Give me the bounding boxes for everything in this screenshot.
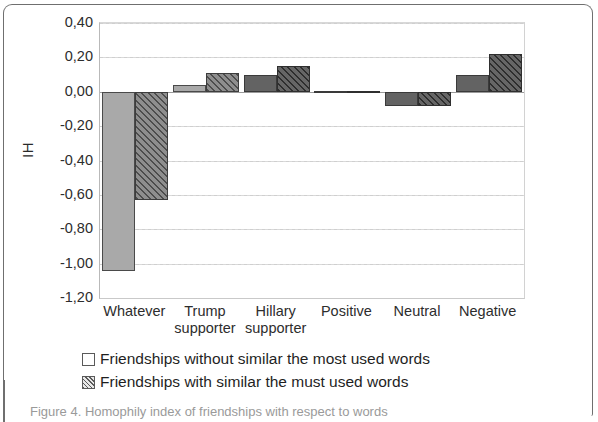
x-axis-label-line: Negative [452,303,523,320]
figure-caption: Figure 4. Homophily index of friendships… [30,404,570,422]
y-axis-tick-mark [99,126,100,127]
x-axis-label: Negative [452,303,523,320]
bar [135,92,168,200]
bar [347,91,380,93]
x-axis-label-line: Trump [170,303,241,320]
y-axis-tick-label: -0,40 [35,152,93,168]
x-axis-label-line: supporter [170,320,241,337]
bar [418,92,451,106]
bar [314,91,347,93]
plot-area [99,22,525,299]
legend-item: Friendships with similar the must used w… [82,371,552,393]
y-axis-tick-mark [99,298,100,299]
legend-label: Friendships with similar the must used w… [100,373,408,391]
gridline [100,23,524,24]
bar [277,66,310,92]
chart-legend: Friendships without similar the most use… [82,348,552,394]
x-axis-label: Trumpsupporter [170,303,241,337]
x-axis-label-line: Positive [311,303,382,320]
open-square-swatch [82,353,95,366]
bar [456,75,489,92]
x-axis-label: Positive [311,303,382,320]
x-axis-label-line: supporter [240,320,311,337]
legend-item: Friendships without similar the most use… [82,348,552,370]
y-axis-tick-mark [99,23,100,24]
x-axis-label-line: Whatever [99,303,170,320]
bar-chart: IH 0,400,200,00-0,20-0,40-0,60-0,80-1,00… [0,0,598,422]
y-axis-tick-mark [99,161,100,162]
y-axis-tick-label: -1,00 [35,255,93,271]
gridline [100,298,524,299]
x-axis-label: Hillarysupporter [240,303,311,337]
y-axis-tick-mark [99,195,100,196]
x-axis-label-line: Hillary [240,303,311,320]
x-axis-label: Whatever [99,303,170,320]
bar [244,75,277,92]
bar [206,73,239,92]
x-axis-label-line: Neutral [382,303,453,320]
legend-label: Friendships without similar the most use… [100,350,430,368]
y-axis-tick-label: -1,20 [35,289,93,305]
gridline [100,229,524,230]
bar [173,85,206,92]
y-axis-tick-label: 0,00 [35,83,93,99]
y-axis-tick-label: -0,60 [35,186,93,202]
hatched-square-swatch [82,376,95,389]
x-axis-category-labels: WhateverTrumpsupporterHillarysupporterPo… [99,303,525,343]
y-axis-tick-mark [99,57,100,58]
y-axis-tick-mark [99,92,100,93]
y-axis-tick-mark [99,264,100,265]
y-axis-tick-mark [99,229,100,230]
bar [385,92,418,106]
x-axis-label: Neutral [382,303,453,320]
y-axis-tick-label: 0,40 [35,14,93,30]
bar [489,54,522,92]
bar [102,92,135,271]
gridline [100,57,524,58]
y-axis-tick-label: -0,20 [35,117,93,133]
y-axis-tick-label: -0,80 [35,220,93,236]
y-axis-tick-label: 0,20 [35,48,93,64]
gridline [100,264,524,265]
